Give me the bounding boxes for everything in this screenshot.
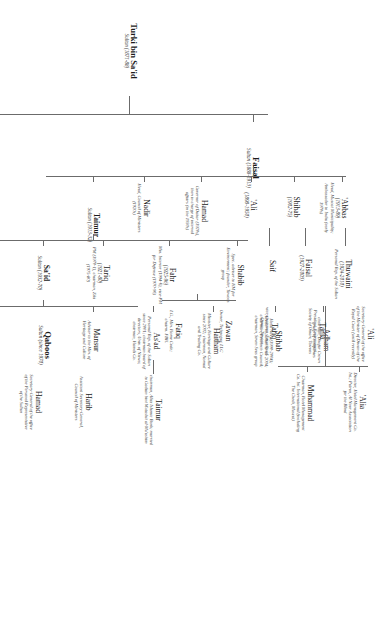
node-name: 'Ali xyxy=(249,182,257,228)
connector xyxy=(153,306,154,312)
connector xyxy=(153,360,154,374)
node-desc: Owner, Technopac LLC xyxy=(219,306,224,356)
family-tree-canvas: Turki bin Sa'id Sultan (1871-88) Faisal … xyxy=(0,0,388,618)
node-name: Qaboos xyxy=(43,312,52,378)
node-desc: Min. Interior (1994-6), vice-PM for Defe… xyxy=(152,246,162,304)
node-desc: President, Environment Society of Oman; … xyxy=(308,306,318,356)
genealogy-figure: Turki bin Sa'id Sultan (1871-88) Faisal … xyxy=(0,0,388,618)
node-name: Hamad xyxy=(34,374,42,430)
node-name: Nadir xyxy=(142,182,150,234)
connector xyxy=(103,240,104,246)
node-desc: Director, Hotel Management Co. Int.; Pat… xyxy=(343,372,358,432)
node-taimur-bank: Taimur chairman, Alizz Islamic Bank; mar… xyxy=(144,374,162,446)
connector xyxy=(46,176,346,177)
node-name: Taimur xyxy=(154,374,162,446)
connector xyxy=(307,366,308,372)
node-name: Fatiq xyxy=(174,306,182,356)
node-desc: LG., Min. Home Code; chairm. FBH. xyxy=(164,306,174,356)
node-tariq: Tariq (1921-80) PM (1970-1), chairman, Z… xyxy=(86,246,110,300)
connector xyxy=(345,228,346,246)
connector xyxy=(43,240,44,246)
connector xyxy=(251,176,252,182)
connector xyxy=(93,306,94,312)
connector xyxy=(253,114,254,122)
node-name: 'Alia xyxy=(358,372,366,432)
connector xyxy=(197,294,198,300)
node-desc: Head, Council of Ministers (1920s) xyxy=(132,182,142,234)
node-shihab-1902: Shihab (1902-75) xyxy=(287,182,300,232)
node-fatiq-detail: Fatiq LG., Min. Home Code; chairm. FBH. xyxy=(164,306,182,356)
node-desc: PM (1970-1), chairman, Ziki (1975-80) xyxy=(86,246,96,300)
node-desc: Personal Rep. of the Sultan xyxy=(333,246,338,302)
node-saif: Saif xyxy=(268,246,276,286)
connector xyxy=(162,300,236,301)
node-zawan: Zawan Owner, Technopac LLC xyxy=(219,306,232,356)
node-asad: As'ad Personal Rep. of the Sultan since … xyxy=(132,312,160,370)
connector xyxy=(129,96,130,114)
node-dates: (1898-1950) xyxy=(244,182,250,228)
node-dates: (1925-96) xyxy=(163,246,169,304)
node-name: Thuwaini xyxy=(344,246,352,302)
node-desc: Head, Muscat Municipality; Ambassador to… xyxy=(319,182,334,234)
node-dates: (1902-75) xyxy=(287,182,293,232)
node-dates: (1927-2003) xyxy=(299,246,305,290)
node-dates: (1913-89) xyxy=(335,182,341,234)
node-name: Tania xyxy=(318,306,326,356)
node-dates: Sultan (since 1970) xyxy=(37,312,43,378)
node-name: Tariq xyxy=(102,246,110,300)
connector xyxy=(278,366,368,367)
node-qaboos: Qaboos Sultan (since 1970) xyxy=(37,312,52,378)
node-desc: Personal Rep. of the Sultan since 2001; … xyxy=(132,312,152,370)
node-abbas: 'Abbas (1913-89) Head, Muscat Municipali… xyxy=(319,182,348,234)
node-name: Sa'id xyxy=(42,246,50,300)
connector xyxy=(0,240,248,241)
node-name: Zawan xyxy=(224,306,232,356)
node-desc: Spec. adviser to HM for Environment; fou… xyxy=(221,246,236,304)
node-name: Faisal xyxy=(304,246,312,290)
connector xyxy=(305,228,306,246)
node-name: 'Abbas xyxy=(340,182,348,234)
node-name: Saif xyxy=(268,246,276,286)
connector xyxy=(201,176,202,182)
node-desc: chairman, Alizz Islamic Bank; married to… xyxy=(144,374,154,446)
node-desc: Assistant Secretary-General, Council of … xyxy=(74,374,84,430)
node-harib: Harib Assistant Secretary-General, Counc… xyxy=(74,374,92,430)
node-said-sultan: Sa'id Sultan (1932-70) xyxy=(37,246,50,300)
node-hamad-sec: Hamad Secretary-General of the office of… xyxy=(19,374,42,430)
node-ali-secretary: 'Ali Secretary-General of the office of … xyxy=(351,306,374,362)
node-name: Harib xyxy=(84,374,92,430)
node-ali-1898: 'Ali (1898-1950) xyxy=(244,182,257,228)
node-nadir: Nadir Head, Council of Ministers (1920s) xyxy=(132,182,150,234)
node-shabib: Shabib Spec. adviser to HM for Environme… xyxy=(221,246,244,304)
node-desc: Secretary-General of the office of the P… xyxy=(19,374,34,430)
node-mansur: Mansur Adviser to the Min. of Heritage a… xyxy=(82,312,100,368)
node-hamad-governor: Hamad Governor of Dakar (1920s), then in… xyxy=(185,182,208,240)
node-name: Shabib xyxy=(236,246,244,304)
node-desc: Governor of Dakar (1920s), then in charg… xyxy=(185,182,200,240)
connector xyxy=(359,366,360,372)
node-faisal-1927: Faisal (1927-2003) xyxy=(299,246,312,290)
node-desc: Chairman, Hotel Management Co. Int. Inte… xyxy=(291,372,306,434)
connector xyxy=(43,300,44,306)
node-tania: Tania President, Environment Society of … xyxy=(308,306,326,356)
node-dates: (1924-2010) xyxy=(339,246,345,302)
node-desc: Minister, Heritage and Culture since 200… xyxy=(197,312,212,370)
connector xyxy=(144,176,145,182)
connector xyxy=(294,176,295,182)
node-desc: Secretary-General of the office of the M… xyxy=(351,306,366,362)
node-name: Turki bin Sa'id xyxy=(129,6,138,96)
node-dates: (1921-80) xyxy=(97,246,103,300)
node-name: 'Ali xyxy=(366,306,374,362)
connector xyxy=(342,176,343,182)
connector xyxy=(237,240,238,246)
node-name: Tariq xyxy=(270,306,278,356)
node-desc: vice-chairman, Security of Oman; Tawoos xyxy=(260,306,270,356)
node-haitham: Haitham Minister, Heritage and Culture s… xyxy=(197,312,220,370)
node-dates: Sultan (1871-88) xyxy=(123,6,129,96)
node-dates: Sultan (1932-70) xyxy=(37,246,43,300)
node-name: Muhammad xyxy=(306,372,314,434)
connector xyxy=(0,114,268,115)
node-turki-bin-said: Turki bin Sa'id Sultan (1871-88) xyxy=(123,6,138,96)
node-thuwaini: Thuwaini (1924-2010) Personal Rep. of th… xyxy=(333,246,352,302)
node-name: Mansur xyxy=(92,312,100,368)
